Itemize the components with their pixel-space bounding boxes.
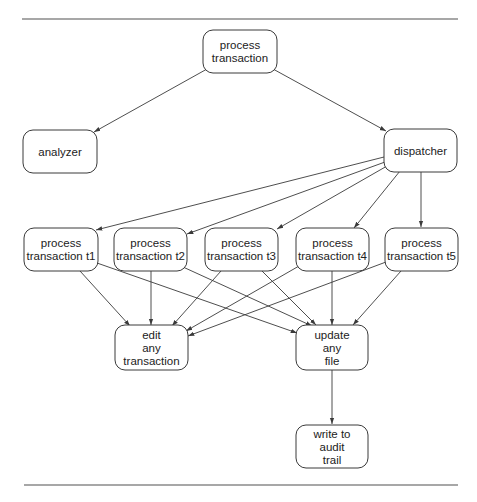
node-label: process	[401, 237, 442, 249]
node-label: transaction t3	[207, 250, 276, 262]
node-dispatcher: dispatcher	[384, 129, 457, 172]
edge-dispatcher-to-t1	[96, 157, 384, 230]
edge-t3-to-edit	[172, 271, 221, 326]
edge-process_transaction-to-analyzer	[94, 69, 207, 132]
node-label: write to	[312, 428, 350, 440]
node-update: updateanyfile	[296, 325, 368, 370]
edge-t1-to-edit	[80, 271, 130, 326]
node-label: update	[314, 329, 349, 341]
node-t5: processtransaction t5	[385, 228, 458, 271]
node-label: process	[41, 237, 82, 249]
node-label: process	[221, 237, 262, 249]
node-label: process	[130, 237, 171, 249]
node-label: dispatcher	[394, 145, 447, 157]
edge-dispatcher-to-t3	[277, 166, 387, 229]
node-label: transaction t4	[298, 250, 368, 262]
node-label: edit	[142, 329, 161, 341]
node-t4: processtransaction t4	[296, 228, 369, 271]
node-label: transaction	[123, 355, 179, 367]
node-process-transaction: processtransaction	[203, 30, 277, 73]
node-analyzer: analyzer	[23, 130, 97, 173]
node-t2: processtransaction t2	[114, 228, 187, 271]
node-label: file	[325, 355, 340, 367]
node-t3: processtransaction t3	[205, 228, 278, 271]
node-label: trail	[323, 454, 342, 466]
node-label: transaction	[212, 52, 268, 64]
node-edit: editanytransaction	[115, 325, 188, 370]
node-label: transaction t2	[116, 250, 185, 262]
node-label: process	[220, 39, 261, 51]
edge-process_transaction-to-dispatcher	[273, 69, 386, 131]
node-label: transaction t1	[26, 250, 95, 262]
node-label: process	[312, 237, 353, 249]
process-transaction-diagram: processtransactionanalyzerdispatcherproc…	[0, 0, 477, 502]
edge-dispatcher-to-t2	[187, 162, 385, 234]
node-label: transaction t5	[387, 250, 456, 262]
node-label: any	[323, 342, 342, 354]
edge-t5-to-update	[353, 271, 401, 325]
nodes-layer: processtransactionanalyzerdispatcherproc…	[23, 30, 458, 468]
node-t1: processtransaction t1	[24, 228, 98, 271]
node-label: analyzer	[38, 146, 82, 158]
edge-dispatcher-to-t4	[354, 171, 400, 228]
node-audit: write toaudittrail	[296, 425, 368, 468]
node-label: any	[142, 342, 161, 354]
node-label: audit	[320, 441, 346, 453]
